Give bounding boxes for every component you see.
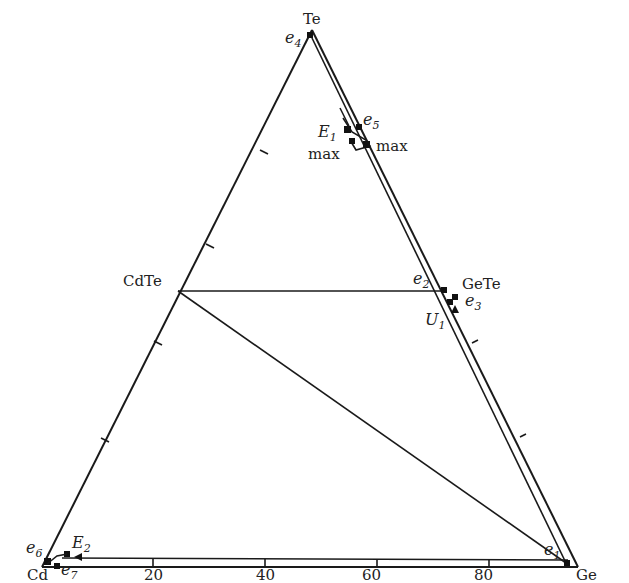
- label-max-left: max: [308, 145, 340, 163]
- axis-tick-60: 60: [362, 566, 381, 583]
- label-e3: e3: [465, 291, 481, 313]
- axis-tick-80: 80: [474, 566, 493, 583]
- axis-tick-20: 20: [144, 566, 163, 583]
- edge-te-cd: [42, 30, 312, 567]
- label-E2: E2: [71, 533, 91, 555]
- axis-tick-40: 40: [256, 566, 275, 583]
- label-e5: e5: [363, 110, 379, 132]
- point-U1: [447, 299, 453, 305]
- point-E1: [344, 126, 351, 133]
- point-max-left: [349, 138, 355, 144]
- tick: [520, 434, 526, 437]
- label-E1: E1: [317, 122, 337, 144]
- point-e5: [356, 124, 362, 130]
- point-max-right: [363, 141, 370, 148]
- liquidus-line-bottom: [62, 558, 568, 560]
- edge-te-ge: [312, 30, 578, 567]
- tick: [206, 244, 214, 248]
- compound-label-cdte: CdTe: [123, 272, 162, 290]
- point-e2: [441, 287, 447, 293]
- tick: [472, 340, 478, 343]
- label-e7: e7: [61, 560, 77, 582]
- label-e6: e6: [26, 538, 42, 560]
- point-e1: [564, 560, 570, 566]
- label-e2: e2: [413, 269, 429, 291]
- label-max-right: max: [376, 137, 408, 155]
- vertex-label-cd: Cd: [27, 566, 48, 583]
- label-e4: e4: [285, 28, 301, 50]
- label-e1: e1: [544, 540, 560, 562]
- point-e7: [54, 563, 60, 569]
- label-U1: U1: [425, 310, 445, 332]
- arrow-e2: [74, 553, 82, 561]
- point-e4: [307, 32, 313, 38]
- vertex-label-te: Te: [303, 10, 321, 28]
- liquidus-line-right: [312, 38, 566, 563]
- arrow-u1: [451, 305, 459, 313]
- tick: [260, 150, 268, 154]
- ternary-diagram: Te Cd Ge CdTe GeTe 20 40 60 80 e4 e5 E1 …: [0, 0, 629, 583]
- vertex-label-ge: Ge: [576, 566, 597, 583]
